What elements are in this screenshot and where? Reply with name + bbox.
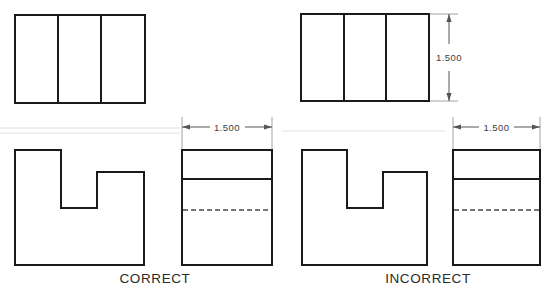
caption-correct: CORRECT <box>120 271 191 286</box>
side-view-correct-outline <box>182 150 272 265</box>
dimension-arrow-down <box>446 93 451 101</box>
front-view-correct-profile <box>15 150 144 265</box>
front-view-incorrect <box>302 150 427 265</box>
side-view-correct <box>182 150 272 265</box>
dimension-arrow-right <box>264 124 272 129</box>
dimension-top-right-vertical: 1.500 <box>430 14 462 101</box>
dimension-arrow-up <box>446 14 451 22</box>
caption-incorrect: INCORRECT <box>385 271 471 286</box>
top-view-incorrect <box>301 14 429 101</box>
drawing-canvas: 1.500 1.500 1.500 <box>0 0 553 297</box>
dimension-value-vertical: 1.500 <box>436 52 462 63</box>
front-view-correct <box>15 150 144 265</box>
front-view-incorrect-profile <box>302 150 427 265</box>
side-view-incorrect <box>453 150 540 265</box>
top-view-correct <box>15 15 145 103</box>
top-view-correct-outline <box>15 15 145 103</box>
technical-drawing: 1.500 1.500 1.500 <box>0 0 553 297</box>
dimension-arrow-left <box>453 124 461 129</box>
dimension-arrow-right <box>532 124 540 129</box>
dimension-middle-horizontal: 1.500 <box>182 117 272 152</box>
dimension-value-middle: 1.500 <box>214 122 240 133</box>
dimension-right-horizontal: 1.500 <box>453 117 540 152</box>
dimension-value-right: 1.500 <box>484 122 510 133</box>
top-view-incorrect-outline <box>301 14 429 101</box>
dimension-arrow-left <box>182 124 190 129</box>
side-view-incorrect-outline <box>453 150 540 265</box>
